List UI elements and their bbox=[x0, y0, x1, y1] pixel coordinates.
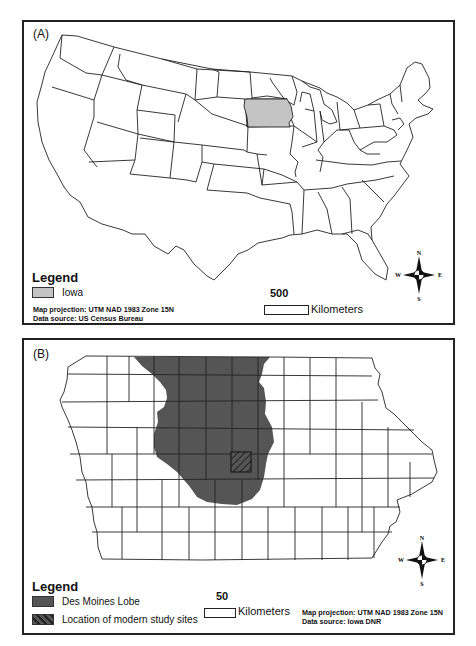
svg-text:S: S bbox=[417, 296, 421, 302]
scale-value: 500 bbox=[270, 287, 288, 299]
iowa-state-highlight bbox=[244, 99, 293, 127]
legend-label: Location of modern study sites bbox=[62, 614, 198, 625]
panel-a-us-map: (A) Legend Iowa Map projection: UTM NAD … bbox=[22, 20, 455, 325]
scale-value: 50 bbox=[216, 590, 228, 602]
projection-note: Map projection: UTM NAD 1983 Zone 15N bbox=[33, 305, 174, 314]
compass-rose-icon: N S W E bbox=[397, 535, 447, 587]
legend-label: Iowa bbox=[62, 287, 83, 298]
svg-text:W: W bbox=[395, 272, 401, 278]
panel-b-iowa-map: (B) Legend Des Moines Lobe Location of m… bbox=[22, 338, 455, 635]
svg-text:E: E bbox=[441, 557, 445, 563]
legend-title: Legend bbox=[32, 579, 78, 594]
source-note: Data source: US Census Bureau bbox=[33, 314, 174, 323]
legend-title: Legend bbox=[32, 270, 78, 285]
running-head bbox=[150, 2, 330, 8]
source-note: Data source: Iowa DNR bbox=[302, 617, 443, 626]
svg-text:E: E bbox=[438, 272, 442, 278]
scale-unit: Kilometers bbox=[311, 303, 363, 315]
scale-box bbox=[204, 608, 236, 618]
panel-b-label: (B) bbox=[33, 347, 49, 361]
svg-text:N: N bbox=[420, 535, 425, 541]
us-states-map bbox=[24, 22, 457, 327]
us-outline bbox=[37, 35, 433, 280]
legend-label: Des Moines Lobe bbox=[62, 596, 140, 607]
map-notes: Map projection: UTM NAD 1983 Zone 15N Da… bbox=[33, 305, 174, 323]
panel-a-label: (A) bbox=[33, 27, 49, 41]
svg-text:S: S bbox=[420, 581, 424, 587]
map-notes: Map projection: UTM NAD 1983 Zone 15N Da… bbox=[302, 608, 443, 626]
svg-text:W: W bbox=[398, 557, 404, 563]
legend-item-iowa: Iowa bbox=[32, 287, 83, 298]
scale-unit: Kilometers bbox=[238, 605, 290, 617]
study-site-swatch bbox=[32, 614, 54, 625]
iowa-counties-map bbox=[24, 340, 457, 637]
study-site-location bbox=[231, 452, 251, 472]
legend-item-study-sites: Location of modern study sites bbox=[32, 614, 198, 625]
lobe-swatch bbox=[32, 596, 54, 607]
compass-rose-icon: N S W E bbox=[394, 250, 444, 300]
des-moines-lobe bbox=[134, 357, 274, 505]
svg-text:N: N bbox=[417, 250, 422, 256]
legend-item-des-moines-lobe: Des Moines Lobe bbox=[32, 596, 140, 607]
scale-box bbox=[264, 305, 309, 315]
iowa-swatch bbox=[32, 287, 54, 298]
projection-note: Map projection: UTM NAD 1983 Zone 15N bbox=[302, 608, 443, 617]
